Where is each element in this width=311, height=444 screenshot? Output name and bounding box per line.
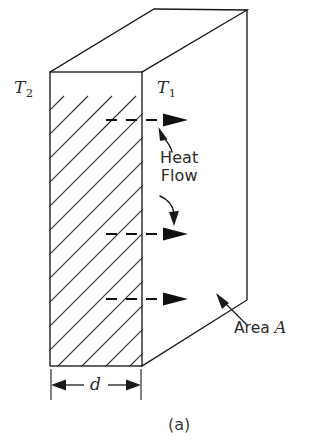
- heat-flow-label: Heat Flow: [160, 150, 198, 184]
- temperature-label-t2: T2: [14, 79, 33, 96]
- area-label: Area A: [234, 320, 287, 337]
- temperature-label-t1: T1: [157, 79, 176, 96]
- front-face-fill: [50, 72, 142, 366]
- temperature-label-t2-symbol: T: [14, 77, 25, 97]
- temperature-label-t1-subscript: 1: [169, 86, 176, 100]
- thickness-label-d: d: [90, 376, 101, 393]
- temperature-label-t1-symbol: T: [157, 77, 168, 97]
- figure-heat-conduction: T2 T1 Heat Flow Area A d (a): [0, 0, 311, 444]
- figure-caption: (a): [168, 417, 190, 433]
- area-label-text: Area: [234, 319, 275, 337]
- temperature-label-t2-subscript: 2: [26, 86, 33, 100]
- slab-diagram-svg: [0, 0, 311, 444]
- heat-flow-label-line2: Flow: [160, 168, 198, 184]
- slab-faces: [50, 9, 247, 366]
- heat-flow-label-line1: Heat: [160, 150, 198, 166]
- area-label-symbol: A: [275, 318, 287, 337]
